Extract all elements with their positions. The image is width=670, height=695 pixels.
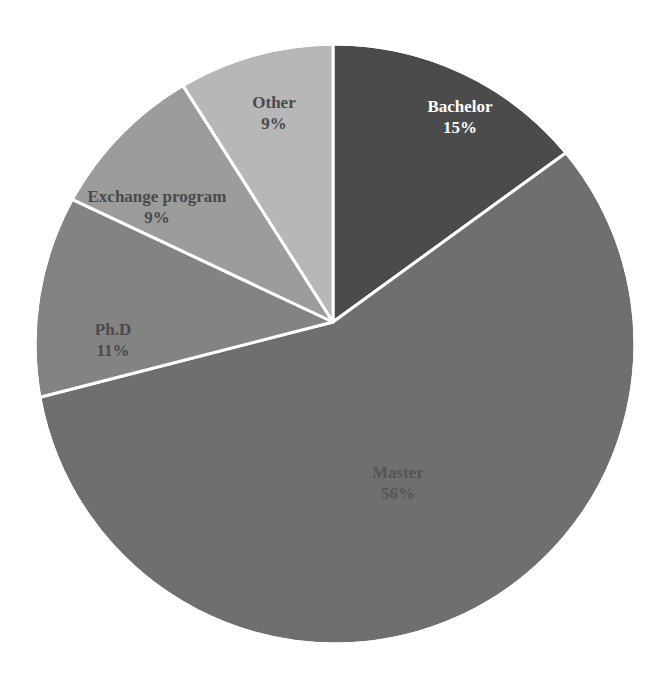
slice-percentage: 9% <box>261 114 287 133</box>
slice-percentage: 9% <box>144 208 170 227</box>
slice-label: Other <box>252 93 296 112</box>
slice-label: Ph.D <box>95 320 131 339</box>
slice-percentage: 11% <box>96 341 129 360</box>
slice-percentage: 56% <box>381 484 415 503</box>
pie-chart: Bachelor15%Master56%Ph.D11%Exchange prog… <box>0 0 670 695</box>
slice-label: Exchange program <box>88 187 227 206</box>
slice-percentage: 15% <box>443 118 477 137</box>
slice-label: Bachelor <box>427 97 493 116</box>
slice-label: Master <box>372 463 424 482</box>
